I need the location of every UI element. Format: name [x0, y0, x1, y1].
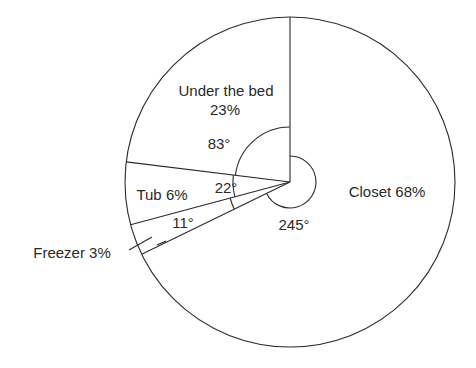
angle-arcs	[230, 127, 316, 209]
label-freezer-angle: 11°	[172, 214, 194, 231]
label-closet-angle: 245°	[278, 216, 309, 233]
label-tub-angle: 22°	[215, 179, 238, 196]
label-under-bed-name: Under the bed	[178, 82, 273, 99]
pie-chart: Under the bed 23% 83° Tub 6% 22° 11° Fre…	[0, 0, 476, 368]
label-under-bed-pct: 23%	[210, 101, 240, 118]
label-freezer: Freezer 3%	[33, 244, 111, 261]
label-tub: Tub 6%	[136, 186, 187, 203]
freezer-leader	[129, 237, 166, 250]
label-under-bed-angle: 83°	[208, 135, 231, 152]
label-closet: Closet 68%	[349, 183, 426, 200]
